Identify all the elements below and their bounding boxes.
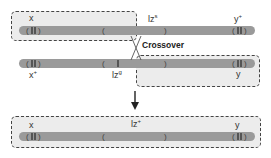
- right-marker: ): [244, 132, 247, 141]
- result-label-y: y: [235, 120, 240, 130]
- result-chromosome: ( ) ( ) ( ): [19, 132, 255, 141]
- crossover-label: Crossover: [142, 40, 184, 50]
- band-icon: [31, 133, 33, 140]
- gene-region-end-marker: ): [164, 132, 167, 141]
- gene-region-start-marker: (: [102, 132, 105, 141]
- result-label-x: x: [29, 120, 34, 130]
- band-icon: [237, 133, 239, 140]
- band-icon: [34, 133, 36, 140]
- left-marker: ): [38, 132, 41, 141]
- band-icon: [240, 133, 242, 140]
- right-marker: (: [232, 132, 235, 141]
- left-marker: (: [26, 132, 29, 141]
- result-label-lz-plus: lz+: [131, 118, 141, 129]
